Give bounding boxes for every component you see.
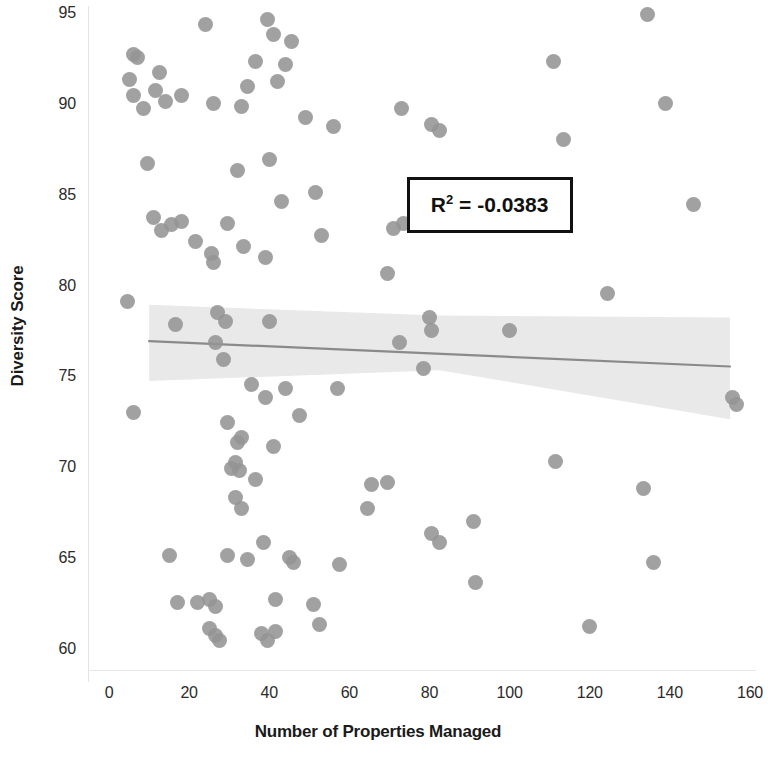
scatter-point	[546, 54, 561, 69]
y-axis-tick-label: 95	[30, 4, 76, 22]
scatter-point	[248, 472, 263, 487]
scatter-point	[582, 619, 597, 634]
scatter-point	[548, 454, 563, 469]
scatter-point	[206, 96, 221, 111]
scatter-point	[292, 408, 307, 423]
x-tick-60: 60	[319, 684, 379, 704]
y-axis-tick-label: 80	[30, 277, 76, 295]
scatter-point	[212, 633, 227, 648]
x-axis-tick-label: 100	[480, 684, 540, 702]
scatter-point	[298, 110, 313, 125]
scatter-point	[206, 255, 221, 270]
scatter-point	[244, 377, 259, 392]
scatter-point	[234, 99, 249, 114]
scatter-point	[278, 381, 293, 396]
y-axis-tick-label: 70	[30, 458, 76, 476]
scatter-point	[314, 228, 329, 243]
scatter-point	[416, 361, 431, 376]
x-axis-title: Number of Properties Managed	[0, 722, 756, 742]
scatter-point	[686, 197, 701, 212]
scatter-point	[198, 17, 213, 32]
scatter-point	[120, 294, 135, 309]
scatter-point	[658, 96, 673, 111]
scatter-point	[220, 216, 235, 231]
scatter-point	[158, 94, 173, 109]
y-tick-70: 70	[14, 458, 76, 478]
scatter-point	[162, 548, 177, 563]
x-axis-tick-label: 0	[79, 684, 139, 702]
x-tick-20: 20	[159, 684, 219, 704]
scatter-point	[270, 74, 285, 89]
scatter-point	[258, 390, 273, 405]
x-axis-tick-label: 160	[720, 684, 768, 702]
scatter-point	[502, 323, 517, 338]
x-tick-40: 40	[239, 684, 299, 704]
x-tick-80: 80	[400, 684, 460, 704]
scatter-point	[262, 314, 277, 329]
scatter-point	[174, 214, 189, 229]
y-axis-tick-label: 90	[30, 95, 76, 113]
scatter-point	[274, 194, 289, 209]
scatter-point	[308, 185, 323, 200]
scatter-point	[394, 101, 409, 116]
scatter-point	[466, 514, 481, 529]
scatter-point	[312, 617, 327, 632]
y-axis-tick-label: 75	[30, 367, 76, 385]
y-tick-95: 95	[14, 4, 76, 24]
scatter-point	[278, 57, 293, 72]
scatter-point	[230, 435, 245, 450]
scatter-point	[240, 552, 255, 567]
scatter-point	[260, 12, 275, 27]
scatter-point	[266, 27, 281, 42]
x-axis-tick-label: 80	[400, 684, 460, 702]
scatter-point	[286, 555, 301, 570]
x-axis-tick-label: 60	[319, 684, 379, 702]
scatter-point	[262, 152, 277, 167]
x-tick-120: 120	[560, 684, 620, 704]
scatter-point	[256, 535, 271, 550]
x-axis-tick-label: 20	[159, 684, 219, 702]
scatter-point	[170, 595, 185, 610]
scatter-point	[168, 317, 183, 332]
scatter-point	[640, 7, 655, 22]
scatter-point	[152, 65, 167, 80]
scatter-point	[636, 481, 651, 496]
scatter-point	[600, 286, 615, 301]
scatter-point	[380, 266, 395, 281]
scatter-point	[258, 250, 273, 265]
scatter-point	[268, 592, 283, 607]
scatter-point	[240, 79, 255, 94]
scatter-point	[284, 34, 299, 49]
scatter-point	[208, 599, 223, 614]
x-axis-tick-label: 40	[239, 684, 299, 702]
scatter-point	[332, 557, 347, 572]
scatter-point	[468, 575, 483, 590]
scatter-point	[556, 132, 571, 147]
scatter-point	[646, 555, 661, 570]
scatter-point	[174, 88, 189, 103]
scatter-point	[126, 88, 141, 103]
scatter-point	[220, 415, 235, 430]
y-tick-65: 65	[14, 549, 76, 569]
scatter-point	[326, 119, 341, 134]
scatter-point	[228, 455, 243, 470]
y-axis-tick-label: 65	[30, 549, 76, 567]
scatter-point	[140, 156, 155, 171]
scatter-point	[248, 54, 263, 69]
y-axis-title: Diversity Score	[8, 226, 28, 426]
scatter-point	[130, 50, 145, 65]
scatter-point	[266, 439, 281, 454]
scatter-point	[330, 381, 345, 396]
scatter-point	[268, 624, 283, 639]
x-axis-tick-label: 120	[560, 684, 620, 702]
scatter-point	[306, 597, 321, 612]
x-tick-0: 0	[79, 684, 139, 704]
scatter-point	[380, 475, 395, 490]
r-squared-prefix: R	[431, 193, 446, 216]
scatter-point	[136, 101, 151, 116]
scatter-point	[218, 314, 233, 329]
scatter-point	[154, 223, 169, 238]
scatter-point	[208, 335, 223, 350]
